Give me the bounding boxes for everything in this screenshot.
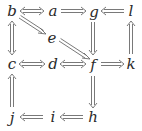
node-j: j: [10, 111, 15, 126]
arrow-f-k: [101, 60, 124, 68]
arrow-b-e: [19, 16, 46, 35]
node-e: e: [48, 31, 57, 46]
node-a: a: [49, 4, 58, 19]
arrow-h-i: [60, 113, 83, 121]
node-c: c: [8, 57, 16, 72]
arrow-f-h: [89, 76, 97, 108]
arrow-g-f: [89, 22, 97, 55]
arrow-c-d: [19, 60, 45, 68]
node-b: b: [7, 4, 17, 19]
node-g: g: [89, 5, 99, 20]
arrow-k-l: [127, 21, 135, 54]
arrow-l-g: [101, 7, 124, 15]
node-h: h: [88, 110, 98, 125]
node-i: i: [51, 110, 56, 125]
commutative-diagram: b a g l e c d f k j i h: [0, 0, 142, 131]
arrow-d-f: [60, 60, 86, 68]
arrow-a-g: [61, 7, 86, 15]
arrow-b-a: [20, 7, 44, 15]
node-k: k: [126, 57, 135, 72]
node-l: l: [129, 4, 134, 19]
node-f: f: [90, 58, 96, 73]
node-d: d: [48, 57, 58, 72]
arrow-b-c: [8, 21, 16, 55]
arrows-layer: [0, 0, 142, 131]
arrow-e-f: [59, 39, 90, 60]
arrow-i-j: [20, 113, 43, 121]
arrow-j-c: [8, 74, 16, 107]
